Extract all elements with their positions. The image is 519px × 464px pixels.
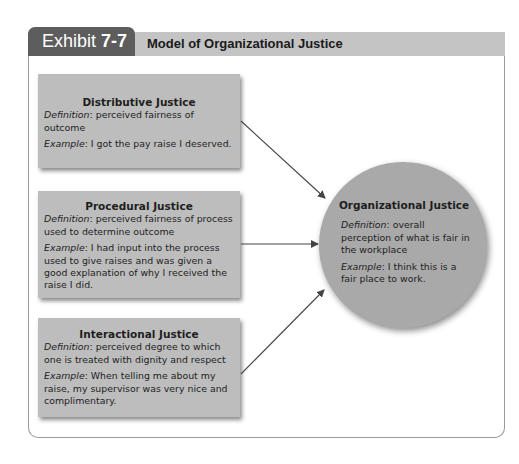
example-label: Example xyxy=(44,242,85,253)
definition-label: Definition xyxy=(44,109,90,120)
distributive-justice-box: Distributive Justice Definition: perceiv… xyxy=(38,74,240,168)
exhibit-number: 7-7 xyxy=(101,31,127,51)
box-title: Procedural Justice xyxy=(44,200,234,212)
box-example: Example: I had input into the process us… xyxy=(44,242,234,292)
box-title: Distributive Justice xyxy=(44,96,234,108)
box-example: Example: When telling me about my raise,… xyxy=(44,370,234,407)
box-definition: Definition: perceived degree to which on… xyxy=(44,341,234,366)
exhibit-title: Model of Organizational Justice xyxy=(147,32,343,56)
exhibit-label-tab: Exhibit 7-7 xyxy=(28,27,135,56)
interactional-justice-box: Interactional Justice Definition: percei… xyxy=(38,318,240,417)
definition-label: Definition xyxy=(341,219,387,230)
circle-title: Organizational Justice xyxy=(335,199,473,211)
definition-label: Definition xyxy=(44,213,90,224)
box-definition: Definition: perceived fairness of proces… xyxy=(44,213,234,238)
exhibit-label-prefix: Exhibit xyxy=(42,31,101,51)
box-definition: Definition: perceived fairness of outcom… xyxy=(44,109,234,134)
example-label: Example xyxy=(44,370,85,381)
circle-definition: Definition: overall perception of what i… xyxy=(341,219,473,256)
box-title: Interactional Justice xyxy=(44,328,234,340)
organizational-justice-circle: Organizational Justice Definition: overa… xyxy=(319,162,487,328)
example-label: Example xyxy=(341,261,382,272)
box-example: Example: I got the pay raise I deserved. xyxy=(44,138,234,150)
example-label: Example xyxy=(44,138,85,149)
procedural-justice-box: Procedural Justice Definition: perceived… xyxy=(38,191,240,298)
circle-example: Example: I think this is a fair place to… xyxy=(341,261,473,286)
definition-label: Definition xyxy=(44,341,90,352)
example-text: : I got the pay raise I deserved. xyxy=(85,138,232,149)
